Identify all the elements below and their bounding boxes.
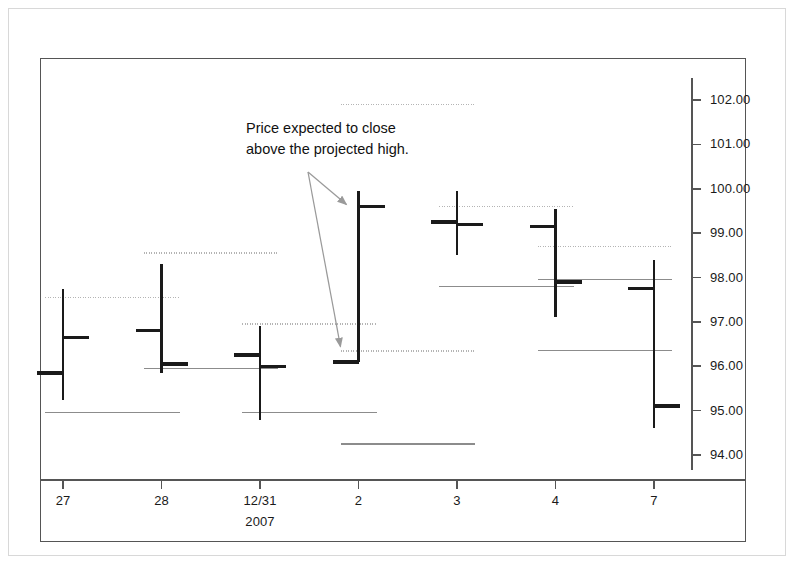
- y-axis-label-3: 99.00: [710, 225, 743, 240]
- ohlc-bar-27: [37, 289, 89, 400]
- y-axis-label-1: 101.00: [710, 136, 750, 151]
- y-axis-label-8: 94.00: [710, 447, 743, 462]
- ohlc-bar-3: [431, 191, 483, 255]
- annotation-arrow-1: [308, 172, 341, 347]
- ohlc-bar-28: [136, 264, 188, 373]
- x-axis-label-1: 28: [154, 493, 169, 508]
- annotation-arrow-0: [308, 172, 347, 205]
- ohlc-bar-4: [530, 209, 582, 318]
- annotation-line-1: Price expected to close: [246, 118, 409, 139]
- x-axis-label-0: 27: [56, 493, 71, 508]
- chart-page: Price expected to close above the projec…: [0, 0, 806, 574]
- x-axis-label-4: 3: [453, 493, 460, 508]
- ohlc-chart-canvas: [0, 0, 806, 574]
- annotation-callout: Price expected to close above the projec…: [246, 118, 409, 159]
- y-axis-label-5: 97.00: [710, 314, 743, 329]
- x-axis-year-label: 2007: [245, 514, 274, 529]
- ohlc-bar-12-31: [234, 326, 286, 419]
- x-axis-label-3: 2: [355, 493, 362, 508]
- y-axis-label-4: 98.00: [710, 270, 743, 285]
- x-axis-label-6: 7: [650, 493, 657, 508]
- annotation-line-2: above the projected high.: [246, 139, 409, 160]
- y-axis-label-6: 96.00: [710, 358, 743, 373]
- ohlc-bar-2: [333, 191, 385, 362]
- x-axis-label-2: 12/31: [243, 493, 276, 508]
- y-axis-label-0: 102.00: [710, 92, 750, 107]
- y-axis-label-7: 95.00: [710, 403, 743, 418]
- y-axis-label-2: 100.00: [710, 181, 750, 196]
- ohlc-bar-7: [628, 260, 680, 429]
- x-axis-label-5: 4: [552, 493, 559, 508]
